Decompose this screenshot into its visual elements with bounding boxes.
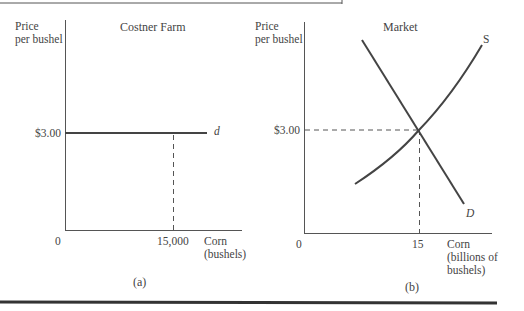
panel-a-y-label-line2: per bushel xyxy=(15,33,63,46)
panel-b-demand-curve xyxy=(362,40,464,204)
panel-a-y-label-line1: Price xyxy=(15,20,63,33)
panel-b-supply-label: S xyxy=(483,33,489,46)
panel-b-y-axis-label: Price per bushel xyxy=(255,20,303,46)
panel-a-x-label-line2: (bushels) xyxy=(204,248,246,261)
panel-b-title: Market xyxy=(383,21,418,34)
panel-b-y-label-line2: per bushel xyxy=(255,33,303,46)
panel-a-x-axis-label: Corn (bushels) xyxy=(204,235,246,261)
panel-b-x-label-line1: Corn xyxy=(447,238,498,251)
panel-b-demand-label: D xyxy=(466,207,474,220)
panel-a-title: Costner Farm xyxy=(120,21,186,34)
panel-a-x-tick: 15,000 xyxy=(157,235,189,248)
panel-b-y-label-line1: Price xyxy=(255,20,303,33)
panel-a-demand-label: d xyxy=(214,125,220,138)
panel-a-origin-label: 0 xyxy=(55,235,61,248)
panel-a-y-tick: $3.00 xyxy=(35,127,61,140)
panel-b-graph xyxy=(304,22,492,234)
panel-b-y-tick: $3.00 xyxy=(274,124,300,137)
panel-b-origin-label: 0 xyxy=(296,238,302,251)
bottom-rule xyxy=(0,302,497,303)
panel-b-x-label-line2: (billions of xyxy=(447,251,498,264)
panel-a-y-axis-label: Price per bushel xyxy=(15,20,63,46)
panel-b-x-label-line3: bushels) xyxy=(447,264,498,277)
panel-b-x-axis-label: Corn (billions of bushels) xyxy=(447,238,498,277)
panel-b-supply-curve xyxy=(355,45,482,184)
panel-b-x-tick: 15 xyxy=(412,238,424,251)
panel-a-x-label-line1: Corn xyxy=(204,235,246,248)
panel-b-caption: (b) xyxy=(405,281,419,294)
figure-graphics xyxy=(0,0,524,311)
panel-a-caption: (a) xyxy=(133,276,146,289)
